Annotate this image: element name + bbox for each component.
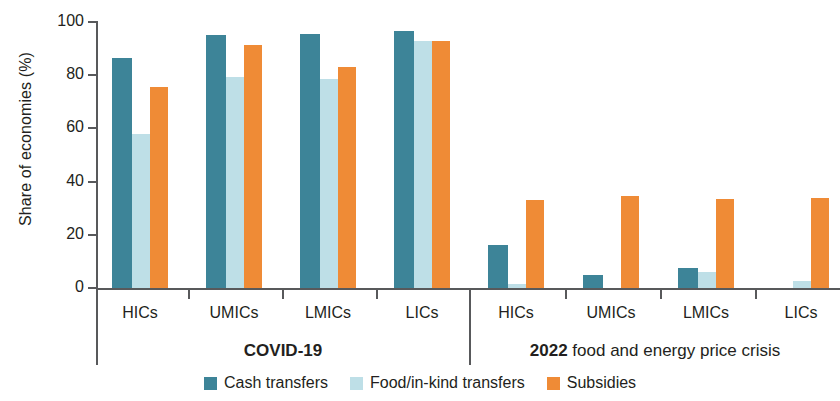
bar [132, 134, 150, 288]
y-axis-tick-label: 20 [24, 226, 84, 242]
bar [432, 41, 450, 288]
bar [414, 41, 432, 288]
bar [621, 196, 639, 288]
legend-label: Subsidies [567, 374, 636, 392]
legend-label: Food/in-kind transfers [370, 374, 525, 392]
y-axis-tick-label: 100 [24, 13, 84, 29]
y-axis-tick [88, 181, 96, 183]
bar [698, 272, 716, 288]
x-axis-category-label: LMICs [305, 304, 351, 322]
x-axis-tick [565, 290, 567, 299]
y-axis-tick-label: 80 [24, 66, 84, 82]
bar [793, 281, 811, 288]
y-axis-tick [88, 21, 96, 23]
bar [206, 35, 226, 288]
bar [112, 58, 132, 288]
panel-divider-line [469, 290, 471, 365]
plot-area [96, 22, 840, 288]
bar [526, 200, 544, 288]
x-axis-tick [376, 290, 378, 299]
y-axis-tick-label: 0 [24, 279, 84, 295]
y-axis-tick-label: 60 [24, 119, 84, 135]
panel-label: 2022 food and energy price crisis [530, 341, 780, 361]
x-axis-category-label: LICs [406, 304, 439, 322]
bar [678, 268, 698, 288]
legend-item: Cash transfers [204, 374, 328, 392]
legend-swatch-icon [350, 377, 363, 390]
y-axis-tick [88, 74, 96, 76]
legend-item: Subsidies [547, 374, 636, 392]
legend-swatch-icon [204, 377, 217, 390]
bar [488, 245, 508, 288]
bar [300, 34, 320, 288]
legend-label: Cash transfers [224, 374, 328, 392]
y-axis-tick [88, 234, 96, 236]
bar [716, 199, 734, 288]
y-axis-tick-label: 40 [24, 173, 84, 189]
bar [508, 284, 526, 288]
x-axis-category-label: UMICs [587, 304, 636, 322]
bar [394, 31, 414, 288]
bar [244, 45, 262, 288]
panel-label: COVID-19 [244, 341, 322, 361]
x-axis-category-label: HICs [498, 304, 534, 322]
x-axis-tick [660, 290, 662, 299]
y-axis-tick [88, 287, 96, 289]
bar [811, 198, 829, 288]
x-axis-category-label: LICs [785, 304, 818, 322]
legend-swatch-icon [547, 377, 560, 390]
x-axis-category-label: HICs [122, 304, 158, 322]
x-axis-line [96, 288, 840, 290]
bar [150, 87, 168, 288]
bar [338, 67, 356, 288]
chart-legend: Cash transfersFood/in-kind transfersSubs… [0, 374, 840, 392]
y-axis-tick [88, 127, 96, 129]
bar [320, 79, 338, 288]
bar [583, 275, 603, 288]
panel-edge-line [96, 290, 98, 365]
x-axis-tick [282, 290, 284, 299]
legend-item: Food/in-kind transfers [350, 374, 525, 392]
bar-chart-figure: Share of economies (%) 020406080100 HICs… [0, 0, 840, 401]
x-axis-tick [755, 290, 757, 299]
x-axis-tick [188, 290, 190, 299]
x-axis-category-label: LMICs [683, 304, 729, 322]
bar [226, 77, 244, 288]
x-axis-category-label: UMICs [210, 304, 259, 322]
